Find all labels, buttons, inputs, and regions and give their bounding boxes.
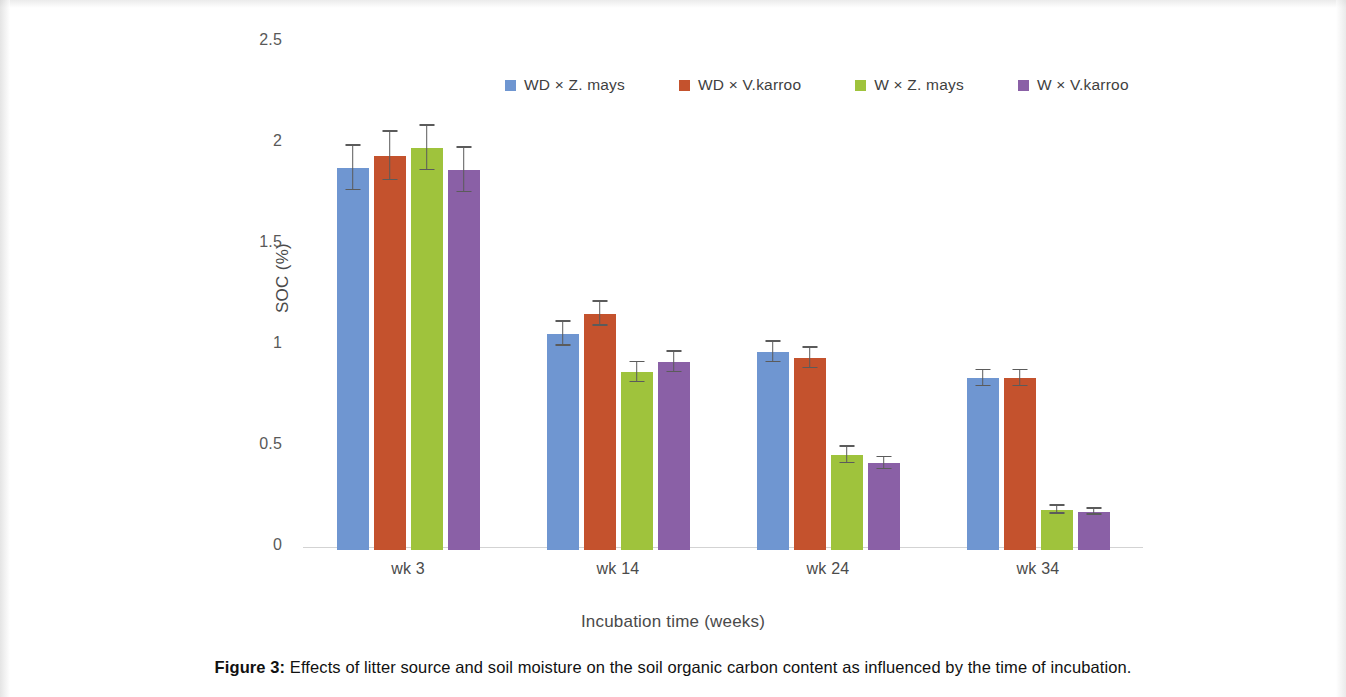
- bar-rect[interactable]: [374, 156, 406, 550]
- x-tick-wk-34: wk 34: [958, 560, 1118, 578]
- bar-wk-24-series-4[interactable]: [868, 453, 900, 550]
- legend-label: W × V.karroo: [1037, 76, 1129, 94]
- figure-caption: Figure 3: Effects of litter source and s…: [0, 658, 1346, 677]
- x-axis-title: Incubation time (weeks): [0, 612, 1346, 632]
- bar-rect[interactable]: [448, 170, 480, 550]
- legend-item-3[interactable]: W × Z. mays: [855, 76, 964, 94]
- bar-rect[interactable]: [757, 352, 789, 550]
- bar-wk-24-series-2[interactable]: [794, 344, 826, 550]
- y-tick-label: 0.5: [222, 435, 282, 453]
- error-bar-cap-top: [629, 361, 644, 363]
- bar-wk-14-series-1[interactable]: [547, 318, 579, 550]
- error-bar: [389, 132, 391, 180]
- plot-area: [303, 30, 1143, 550]
- bar-group-wk-14: [547, 30, 690, 550]
- error-bar-cap-bottom: [666, 371, 681, 373]
- bar-chart: SOC (%) 00.511.522.5 wk 3wk 14wk 24wk 34…: [0, 0, 1346, 648]
- bar-wk-34-series-3[interactable]: [1041, 502, 1073, 550]
- bar-rect[interactable]: [967, 378, 999, 550]
- y-tick-1p5: 1.5: [222, 233, 282, 251]
- bar-rect[interactable]: [794, 358, 826, 550]
- bar-rect[interactable]: [1078, 512, 1110, 550]
- bar-wk-14-series-3[interactable]: [621, 358, 653, 550]
- error-bar-cap-bottom: [1012, 385, 1027, 387]
- legend-item-1[interactable]: WD × Z. mays: [505, 76, 625, 94]
- bar-wk-34-series-4[interactable]: [1078, 505, 1110, 550]
- error-bar-cap-bottom: [456, 191, 471, 193]
- legend-label: WD × Z. mays: [524, 76, 625, 94]
- error-bar: [809, 348, 811, 368]
- error-bar-cap-top: [419, 124, 434, 126]
- error-bar: [636, 362, 638, 382]
- bar-wk-3-series-2[interactable]: [374, 128, 406, 550]
- error-bar-cap-top: [382, 130, 397, 132]
- error-bar-cap-top: [1012, 369, 1027, 371]
- bar-rect[interactable]: [868, 463, 900, 550]
- error-bar-cap-top: [802, 346, 817, 348]
- bar-group-wk-34: [967, 30, 1110, 550]
- error-bar: [772, 342, 774, 362]
- legend-swatch-icon: [855, 80, 866, 91]
- bar-rect[interactable]: [584, 314, 616, 550]
- bar-wk-24-series-3[interactable]: [831, 443, 863, 550]
- legend-swatch-icon: [1018, 80, 1029, 91]
- error-bar-cap-top: [765, 340, 780, 342]
- bar-wk-14-series-4[interactable]: [658, 348, 690, 550]
- bar-wk-14-series-2[interactable]: [584, 298, 616, 550]
- bar-rect[interactable]: [831, 455, 863, 550]
- bar-group-wk-24: [757, 30, 900, 550]
- figure-caption-label: Figure 3:: [215, 658, 286, 676]
- bar-wk-34-series-2[interactable]: [1004, 366, 1036, 550]
- error-bar-cap-top: [839, 445, 854, 447]
- bar-wk-3-series-3[interactable]: [411, 122, 443, 550]
- error-bar-cap-top: [876, 456, 891, 458]
- error-bar-cap-bottom: [839, 462, 854, 464]
- y-tick-0p5: 0.5: [222, 435, 282, 453]
- bar-rect[interactable]: [1041, 510, 1073, 550]
- legend-item-4[interactable]: W × V.karroo: [1018, 76, 1129, 94]
- bar-wk-34-series-1[interactable]: [967, 366, 999, 550]
- error-bar: [599, 302, 601, 326]
- y-tick-2: 2: [222, 132, 282, 150]
- bar-rect[interactable]: [547, 334, 579, 550]
- y-tick-label: 0: [222, 536, 282, 554]
- bar-rect[interactable]: [621, 372, 653, 550]
- error-bar-cap-top: [456, 146, 471, 148]
- x-tick-wk-3: wk 3: [328, 560, 488, 578]
- error-bar-cap-top: [555, 320, 570, 322]
- x-tick-wk-14: wk 14: [538, 560, 698, 578]
- error-bar: [673, 352, 675, 372]
- y-tick-label: 1: [222, 334, 282, 352]
- bar-rect[interactable]: [337, 168, 369, 550]
- bar-wk-3-series-4[interactable]: [448, 144, 480, 550]
- error-bar-cap-bottom: [1086, 513, 1101, 515]
- figure-caption-text: Effects of litter source and soil moistu…: [285, 658, 1131, 676]
- bar-group-wk-3: [337, 30, 480, 550]
- bar-rect[interactable]: [1004, 378, 1036, 550]
- y-tick-0: 0: [222, 536, 282, 554]
- error-bar-cap-bottom: [975, 385, 990, 387]
- error-bar-cap-top: [1049, 504, 1064, 506]
- legend-item-2[interactable]: WD × V.karroo: [679, 76, 801, 94]
- legend-label: W × Z. mays: [874, 76, 964, 94]
- error-bar-cap-bottom: [555, 344, 570, 346]
- bar-wk-24-series-1[interactable]: [757, 338, 789, 550]
- error-bar-cap-top: [1086, 507, 1101, 509]
- bar-wk-3-series-1[interactable]: [337, 142, 369, 550]
- bar-rect[interactable]: [411, 148, 443, 550]
- bar-rect[interactable]: [658, 362, 690, 550]
- error-bar-cap-bottom: [802, 367, 817, 369]
- error-bar-cap-top: [975, 369, 990, 371]
- error-bar-cap-bottom: [1049, 512, 1064, 514]
- y-tick-1: 1: [222, 334, 282, 352]
- figure-3: SOC (%) 00.511.522.5 wk 3wk 14wk 24wk 34…: [0, 0, 1346, 697]
- legend-swatch-icon: [505, 80, 516, 91]
- error-bar: [562, 322, 564, 346]
- error-bar-cap-bottom: [345, 189, 360, 191]
- y-tick-label: 1.5: [222, 233, 282, 251]
- legend-swatch-icon: [679, 80, 690, 91]
- error-bar-cap-top: [345, 144, 360, 146]
- error-bar: [426, 126, 428, 170]
- error-bar: [463, 148, 465, 192]
- y-tick-2p5: 2.5: [222, 31, 282, 49]
